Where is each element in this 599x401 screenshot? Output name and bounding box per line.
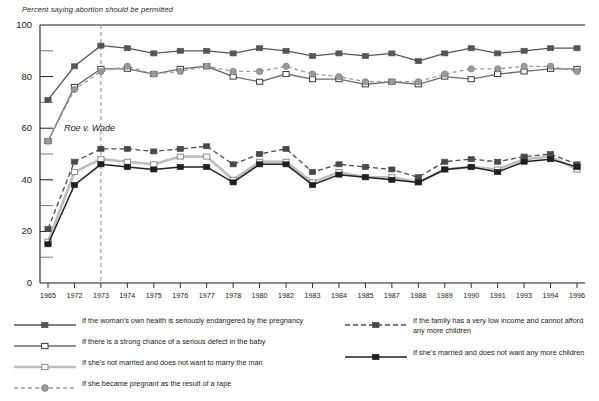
data-point — [415, 59, 421, 64]
data-point — [547, 63, 553, 69]
legend-key-birth-defect — [14, 338, 76, 350]
data-point — [389, 51, 395, 56]
data-point — [336, 51, 342, 56]
data-point — [177, 48, 183, 53]
x-tick-label: 1991 — [490, 291, 506, 300]
legend-key-not-married — [14, 359, 76, 371]
data-point — [362, 53, 368, 58]
annotation-roe-v-wade: Roe v. Wade — [64, 123, 115, 133]
data-point — [151, 167, 157, 172]
data-point — [442, 167, 448, 172]
data-point — [442, 51, 448, 56]
data-point — [177, 154, 183, 159]
data-point — [336, 172, 342, 177]
data-point — [521, 154, 527, 159]
data-point — [124, 159, 130, 164]
x-tick-label: 1989 — [437, 291, 453, 300]
legend-key-low-income — [345, 317, 407, 329]
x-tick-label: 1982 — [278, 291, 294, 300]
data-point — [45, 138, 51, 144]
chart-page: Percent saying abortion should be permit… — [0, 0, 599, 401]
y-tick-label: 20 — [6, 225, 32, 236]
data-point — [257, 46, 263, 51]
data-point — [98, 157, 104, 162]
x-tick-label: 1978 — [225, 291, 241, 300]
x-tick-label: 1988 — [410, 291, 426, 300]
data-point — [124, 146, 130, 151]
data-point — [71, 86, 77, 92]
data-point — [468, 66, 474, 72]
data-point — [521, 48, 527, 53]
data-point — [124, 63, 130, 69]
data-point — [204, 48, 210, 53]
data-point — [151, 149, 157, 154]
data-point — [257, 162, 263, 167]
data-point — [574, 68, 580, 74]
data-point — [283, 63, 289, 69]
data-point — [257, 79, 263, 84]
y-tick-label: 0 — [6, 277, 32, 288]
legend-item-rape[interactable]: If she became pregnant as the result of … — [14, 379, 334, 392]
legend-label: If the family has a very low income and … — [407, 316, 583, 335]
x-tick-label: 1990 — [463, 291, 479, 300]
data-point — [204, 63, 210, 69]
data-point — [124, 164, 130, 169]
data-point — [230, 162, 236, 167]
data-point — [45, 97, 51, 102]
y-tick-label: 40 — [6, 174, 32, 185]
data-point — [547, 157, 553, 162]
data-point — [45, 242, 51, 247]
legend-item-womans-health[interactable]: If the woman's own health is seriously e… — [14, 316, 334, 329]
x-tick-label: 1972 — [66, 291, 82, 300]
data-point — [204, 144, 210, 149]
data-point — [177, 164, 183, 169]
data-point — [442, 71, 448, 77]
data-point — [98, 68, 104, 74]
data-point — [415, 79, 421, 85]
data-point — [547, 152, 553, 157]
data-point — [71, 159, 77, 164]
data-point — [204, 154, 210, 159]
data-point — [468, 164, 474, 169]
legend-item-low-income[interactable]: If the family has a very low income and … — [345, 316, 595, 335]
legend-item-not-married[interactable]: If she's not married and does not want t… — [14, 358, 334, 371]
x-tick-label: 1974 — [119, 291, 135, 300]
legend-item-birth-defect[interactable]: If there is a strong chance of a serious… — [14, 337, 334, 350]
data-point — [283, 48, 289, 53]
x-tick-label: 1976 — [172, 291, 188, 300]
data-point — [204, 164, 210, 169]
data-point — [257, 152, 263, 157]
data-point — [547, 46, 553, 51]
chart-title: Percent saying abortion should be permit… — [22, 5, 173, 14]
data-point — [415, 175, 421, 180]
data-point — [151, 162, 157, 167]
data-point — [309, 170, 315, 175]
data-point — [389, 79, 395, 85]
data-point — [574, 164, 580, 169]
data-point — [98, 162, 104, 167]
x-tick-label: 1985 — [357, 291, 373, 300]
data-point — [283, 146, 289, 151]
x-tick-label: 1984 — [331, 291, 347, 300]
x-tick-label: 1975 — [146, 291, 162, 300]
data-point — [521, 63, 527, 69]
data-point — [495, 51, 501, 56]
data-point — [389, 167, 395, 172]
data-point — [256, 68, 262, 74]
plot-svg — [40, 25, 585, 283]
legend-label: If she's not married and does not want t… — [76, 358, 263, 368]
data-point — [124, 46, 130, 51]
data-point — [309, 182, 315, 187]
data-point — [45, 226, 51, 231]
data-point — [468, 46, 474, 51]
x-tick-label: 1996 — [569, 291, 585, 300]
legend-label: If the woman's own health is seriously e… — [76, 316, 303, 326]
y-tick-label: 80 — [6, 71, 32, 82]
data-point — [309, 71, 315, 77]
data-point — [151, 51, 157, 56]
data-point — [309, 53, 315, 58]
legend-key-rape — [14, 380, 76, 392]
legend-item-married-no-more[interactable]: If she's married and does not want any m… — [345, 348, 595, 361]
data-point — [71, 64, 77, 69]
data-point — [574, 46, 580, 51]
